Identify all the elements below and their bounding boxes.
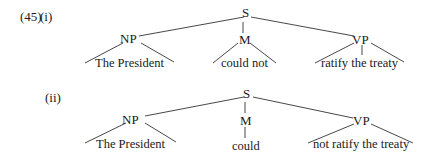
leaf-np: The President — [95, 56, 164, 70]
node-m: M — [239, 33, 251, 47]
node-np: NP — [122, 113, 139, 127]
tree-label: (ii) — [45, 91, 61, 105]
node-m: M — [240, 114, 252, 128]
leaf-np: The President — [96, 137, 165, 151]
tree-label: (i) — [40, 10, 52, 24]
example-number: (45) — [20, 10, 42, 24]
leaf-vp: not ratify the treaty — [313, 137, 409, 151]
node-vp: VP — [353, 114, 370, 128]
leaf-m: could — [232, 139, 260, 153]
root-node-s: S — [243, 87, 250, 101]
edge-s-np-2 — [145, 97, 244, 116]
edge-s-vp-2 — [253, 97, 353, 118]
edge-s-vp-1 — [251, 17, 354, 36]
edge-s-np-1 — [139, 17, 244, 36]
leaf-vp: ratify the treaty — [321, 56, 398, 70]
leaf-m: could not — [221, 56, 268, 70]
node-np: NP — [120, 32, 137, 46]
node-vp: VP — [352, 33, 369, 47]
root-node-s: S — [242, 6, 249, 20]
tree-lines — [0, 0, 433, 160]
